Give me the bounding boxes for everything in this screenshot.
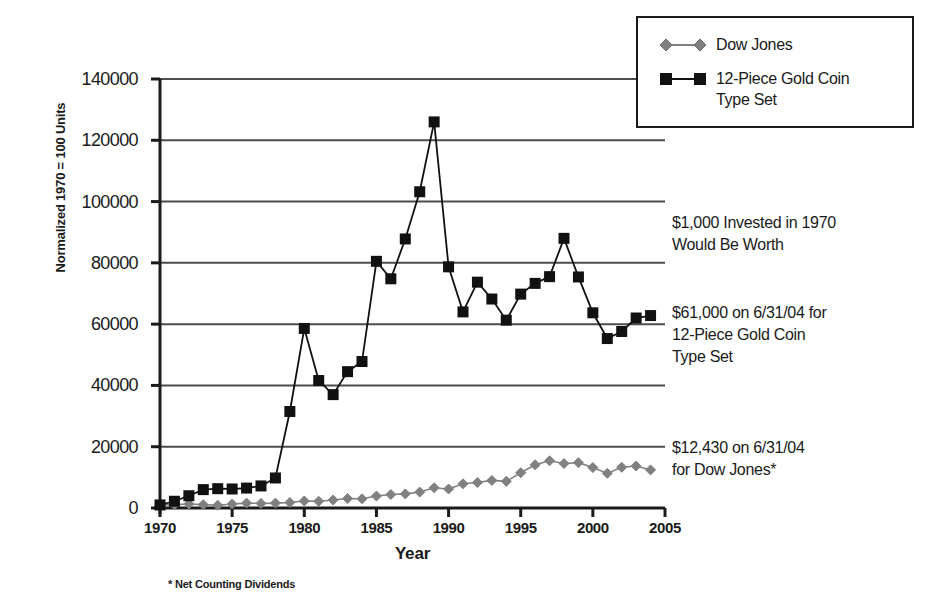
y-tick-label: 100000 — [48, 191, 138, 212]
annotation-dow-jones-value: $12,430 on 6/31/04 for Dow Jones* — [672, 437, 805, 481]
annotation-gold-coin-value: $61,000 on 6/31/04 for 12-Piece Gold Coi… — [672, 302, 826, 368]
chart-legend: Dow Jones 12-Piece Gold Coin Type Set — [636, 16, 914, 128]
x-axis-title: Year — [160, 544, 665, 564]
x-tick-label: 1985 — [361, 519, 393, 536]
x-tick-label: 2005 — [649, 519, 681, 536]
annotation-invested: $1,000 Invested in 1970 Would Be Worth — [672, 212, 836, 256]
series-gold-coin-type-set — [155, 116, 657, 510]
x-tick-label: 1975 — [216, 519, 248, 536]
legend-label-dow-jones: Dow Jones — [716, 34, 792, 55]
y-tick-label: 80000 — [48, 252, 138, 273]
legend-item-gold-coin: 12-Piece Gold Coin Type Set — [656, 68, 849, 110]
x-tick-label: 1970 — [144, 519, 176, 536]
y-tick-label: 20000 — [48, 436, 138, 457]
y-tick-label: 40000 — [48, 375, 138, 396]
axis-lines — [154, 79, 665, 514]
y-tick-label: 140000 — [48, 69, 138, 90]
x-axis-tick-labels: 19701975198019851990199520002005 — [0, 519, 928, 543]
legend-item-dow-jones: Dow Jones — [656, 34, 792, 55]
chart-footnote: * Net Counting Dividends — [168, 578, 295, 590]
gridlines — [160, 79, 665, 447]
y-tick-label: 0 — [48, 498, 138, 519]
y-tick-label: 120000 — [48, 130, 138, 151]
y-tick-label: 60000 — [48, 314, 138, 335]
chart-figure: Normalized 1970 = 100 Units 020000400006… — [0, 0, 928, 616]
diamond-marker-icon — [656, 35, 710, 55]
x-tick-label: 1995 — [505, 519, 537, 536]
x-tick-label: 1990 — [433, 519, 465, 536]
x-tick-label: 1980 — [288, 519, 320, 536]
series-dow-jones — [155, 456, 656, 510]
x-tick-label: 2000 — [577, 519, 609, 536]
legend-label-gold-coin: 12-Piece Gold Coin Type Set — [716, 68, 849, 110]
square-marker-icon — [656, 69, 710, 89]
